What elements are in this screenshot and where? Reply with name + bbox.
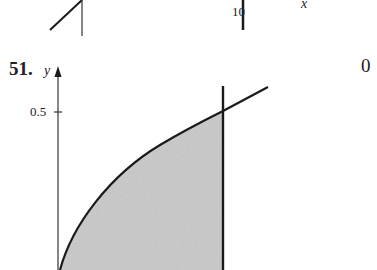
diagonal-line [50,0,82,30]
y-tick-label: 0.5 [30,104,46,120]
y-axis-label: y [44,63,50,79]
tick-label-10: 10 [232,4,245,20]
shaded-region [60,111,223,270]
x-axis-label: x [301,0,307,12]
side-label-zero: 0 [361,55,371,77]
figure-canvas [0,0,377,270]
y-axis-arrow-icon [55,66,62,77]
problem-number: 51. [9,58,33,80]
previous-figure-fragment [50,0,243,36]
